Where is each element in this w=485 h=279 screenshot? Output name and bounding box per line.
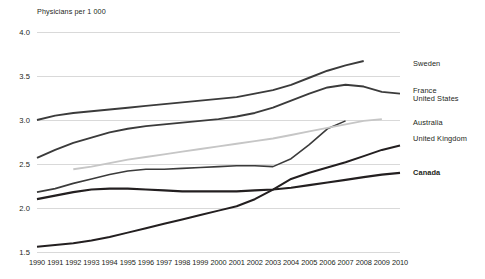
series-line-sweden	[37, 61, 364, 120]
series-line-australia	[73, 119, 382, 169]
legend-label-united-kingdom: United Kingdom	[413, 134, 467, 143]
series-line-canada	[37, 173, 400, 199]
legend-label-canada: Canada	[413, 168, 440, 177]
legend-label-australia: Australia	[413, 118, 443, 127]
legend-label-united-states: United States	[413, 94, 459, 103]
legend-label-sweden: Sweden	[413, 59, 440, 68]
physicians-per-1000-line-chart: Physicians per 1 000 1.52.02.53.03.54.0 …	[0, 0, 485, 279]
series-line-united-kingdom	[37, 146, 400, 247]
series-line-united-states	[37, 121, 346, 192]
